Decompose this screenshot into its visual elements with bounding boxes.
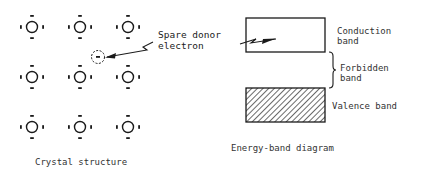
atom-8 [116, 115, 140, 139]
atom-6 [20, 115, 44, 139]
valence-band-box [246, 88, 325, 122]
forbidden-label-line2: band [340, 73, 362, 83]
atom-3 [20, 65, 44, 89]
atom-1 [68, 15, 92, 39]
conduction-band-box [246, 18, 325, 52]
donor-arrow [105, 42, 153, 59]
atom-4 [68, 65, 92, 89]
annotation-line1: Spare donor [158, 29, 221, 40]
crystal-caption: Crystal structure [35, 157, 127, 167]
conduction-label-line2: band [337, 36, 359, 46]
forbidden-label-line1: Forbidden [340, 63, 389, 73]
crystal-lattice [20, 15, 140, 139]
atom-7 [68, 115, 92, 139]
valence-label: Valence band [332, 101, 397, 111]
conduction-label-line1: Conduction [337, 26, 391, 36]
semiconductor-diagram: Spare donor electron Conduction band For… [0, 0, 421, 183]
band-diagram-caption: Energy-band diagram [231, 143, 334, 153]
donor-electron [92, 51, 105, 64]
forbidden-brace [329, 52, 336, 88]
atom-0 [20, 15, 44, 39]
atom-2 [116, 15, 140, 39]
annotation-line2: electron [158, 40, 204, 51]
atom-5 [116, 65, 140, 89]
